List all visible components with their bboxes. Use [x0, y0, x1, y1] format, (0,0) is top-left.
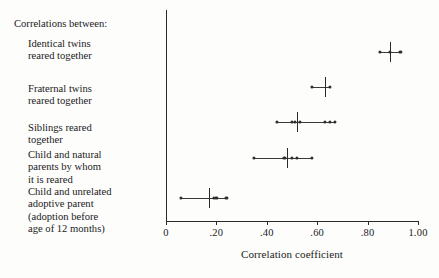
median-marker — [287, 148, 288, 168]
data-point — [379, 50, 382, 53]
x-tick-label: .40 — [260, 227, 274, 238]
data-point — [293, 120, 296, 123]
x-tick-mark — [368, 221, 369, 225]
category-label-line: reared together — [28, 95, 164, 107]
data-point — [275, 120, 278, 123]
data-point — [389, 50, 392, 53]
data-point — [253, 156, 256, 159]
x-axis-line — [166, 221, 418, 222]
data-point — [290, 156, 293, 159]
y-axis-line — [166, 10, 167, 222]
x-tick-label: 0 — [163, 227, 168, 238]
data-point — [295, 156, 298, 159]
data-point — [328, 120, 331, 123]
data-point — [215, 196, 218, 199]
x-tick-mark — [166, 221, 167, 225]
category-label-1: Identical twinsreared together — [28, 38, 164, 63]
data-point — [333, 120, 336, 123]
data-point — [399, 50, 402, 53]
correlation-chart-figure: Correlations between: 0.20.40.60.801.00 … — [0, 0, 439, 278]
category-label-line: Child and unrelated — [28, 186, 164, 198]
x-axis-title: Correlation coefficient — [166, 248, 418, 260]
x-tick-label: .20 — [210, 227, 224, 238]
data-point — [328, 85, 331, 88]
median-marker — [209, 188, 210, 208]
category-label-line: reared together — [28, 50, 164, 62]
category-label-5: Child and unrelatedadoptive parent(adopt… — [28, 186, 164, 236]
category-label-line: Child and natural — [28, 149, 164, 161]
chart-caption: Correlations between: — [14, 18, 164, 30]
data-point — [311, 85, 314, 88]
category-label-line: Siblings reared — [28, 122, 164, 134]
data-point — [283, 156, 286, 159]
x-tick-mark — [418, 221, 419, 225]
range-line — [312, 87, 330, 88]
category-label-line: Identical twins — [28, 38, 164, 50]
x-tick-label: .80 — [361, 227, 375, 238]
data-point — [225, 196, 228, 199]
category-label-2: Fraternal twinsreared together — [28, 83, 164, 108]
category-label-line: Fraternal twins — [28, 83, 164, 95]
data-point — [311, 156, 314, 159]
x-tick-mark — [317, 221, 318, 225]
x-tick-mark — [267, 221, 268, 225]
category-label-line: together — [28, 134, 164, 146]
data-point — [180, 196, 183, 199]
category-label-line: adoptive parent — [28, 198, 164, 210]
category-label-line: parents by whom — [28, 161, 164, 173]
range-line — [181, 198, 226, 199]
category-label-3: Siblings rearedtogether — [28, 122, 164, 147]
category-label-line: it is reared — [28, 174, 164, 186]
x-tick-label: .60 — [310, 227, 324, 238]
data-point — [298, 120, 301, 123]
median-marker — [325, 77, 326, 97]
category-label-4: Child and naturalparents by whomit is re… — [28, 149, 164, 186]
x-tick-label: 1.00 — [408, 227, 427, 238]
category-label-line: (adoption before — [28, 211, 164, 223]
x-tick-mark — [216, 221, 217, 225]
category-label-line: age of 12 months) — [28, 223, 164, 235]
data-point — [323, 120, 326, 123]
